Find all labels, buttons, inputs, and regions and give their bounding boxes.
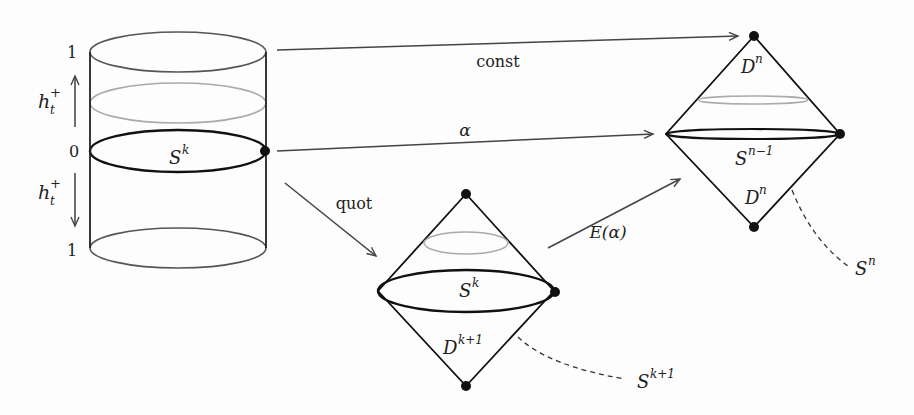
cylinder: 1 0 1 h + t h + t S k	[38, 32, 270, 268]
flow-up-label: h	[38, 90, 50, 112]
large-equator-ellipse	[666, 129, 840, 139]
small-equator-label: S	[459, 280, 471, 301]
tick-mid-label: 0	[69, 142, 79, 161]
flow-down-label: h	[38, 181, 50, 203]
cylinder-top-ellipse	[90, 32, 266, 72]
quot-label: quot	[336, 194, 373, 213]
small-disk-label: D	[442, 337, 458, 358]
cylinder-upper-level-ellipse	[90, 83, 266, 123]
large-basepoint-dot	[835, 129, 845, 139]
large-equator-label: S	[735, 148, 747, 169]
diagram-canvas: 1 0 1 h + t h + t S k const α quot E(α) …	[0, 0, 914, 415]
small-equator-sup: k	[472, 276, 479, 290]
large-sphere-leader	[792, 190, 848, 266]
small-sphere-sup: k+1	[650, 367, 675, 381]
flow-up-sup: +	[50, 85, 61, 100]
large-upper-level-ellipse	[698, 96, 808, 104]
large-bottom-disk-sup: n	[759, 183, 767, 197]
diagram-svg: 1 0 1 h + t h + t S k const α quot E(α) …	[0, 0, 914, 415]
large-bottom-dot	[749, 222, 759, 232]
flow-down-sup: +	[50, 176, 61, 191]
small-basepoint-dot	[550, 287, 560, 297]
large-sphere-sup: n	[868, 254, 876, 268]
const-arrow	[277, 36, 738, 50]
large-equator-sup: n−1	[748, 144, 773, 158]
large-top-disk-sup: n	[755, 52, 763, 66]
flow-down-sub: t	[50, 194, 55, 208]
small-disk-sup: k+1	[458, 333, 483, 347]
flow-up-sub: t	[50, 103, 55, 117]
maps: const α quot E(α)	[277, 36, 738, 256]
tick-top-label: 1	[67, 43, 77, 62]
large-top-dot	[749, 31, 759, 41]
alpha-label: α	[459, 120, 471, 140]
cylinder-sphere-sup: k	[182, 143, 189, 157]
large-sphere-label: S	[855, 258, 867, 279]
basepoint-dot	[260, 146, 270, 156]
const-label: const	[476, 52, 520, 71]
large-top-disk-label: D	[740, 56, 756, 77]
small-top-dot	[461, 189, 471, 199]
small-sphere-label: S	[637, 371, 649, 392]
small-sphere-leader	[518, 337, 625, 379]
small-upper-level-ellipse	[424, 232, 508, 254]
extension-label: E(α)	[588, 222, 626, 242]
small-bottom-dot	[461, 381, 471, 391]
tick-bottom-label: 1	[67, 241, 77, 260]
suspension-small: S k D k+1 S k+1	[378, 189, 675, 392]
large-bottom-disk-label: D	[744, 187, 760, 208]
cylinder-sphere-label: S	[169, 147, 181, 168]
cylinder-bottom-ellipse	[90, 228, 266, 268]
suspension-large: D n S n−1 D n S n	[666, 31, 876, 279]
